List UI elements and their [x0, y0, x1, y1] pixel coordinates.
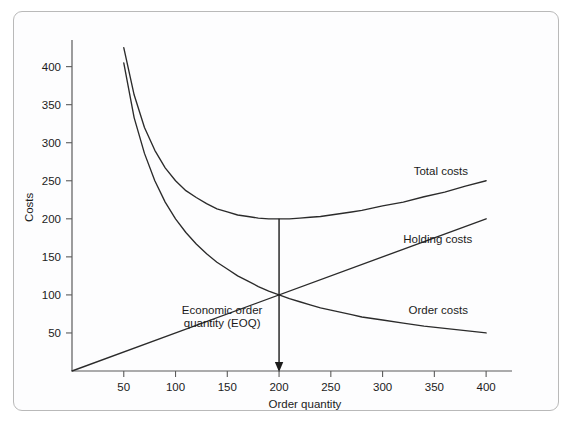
x-tick-label: 150 — [218, 381, 237, 393]
y-tick-label: 150 — [42, 251, 61, 263]
x-tick-label: 100 — [166, 381, 185, 393]
x-tick-label: 50 — [117, 381, 130, 393]
x-tick-label: 200 — [269, 381, 288, 393]
y-tick-label: 400 — [42, 61, 61, 73]
series-curve-order-costs — [124, 63, 486, 333]
y-tick-label: 350 — [42, 99, 61, 111]
y-tick-label: 250 — [42, 175, 61, 187]
eoq-chart: 5010015020025030035040050100150200250300… — [0, 0, 572, 425]
eoq-annotation-line1: Economic order — [182, 304, 263, 316]
x-tick-label: 300 — [373, 381, 392, 393]
series-label-holding-costs: Holding costs — [403, 233, 472, 245]
y-tick-label: 100 — [42, 289, 61, 301]
x-tick-label: 350 — [425, 381, 444, 393]
y-tick-label: 300 — [42, 137, 61, 149]
series-label-total-costs: Total costs — [414, 165, 469, 177]
x-tick-label: 250 — [321, 381, 340, 393]
series-curve-total-costs — [124, 48, 486, 219]
y-tick-label: 50 — [48, 327, 61, 339]
x-tick-label: 400 — [477, 381, 496, 393]
eoq-annotation-line2: quantity (EOQ) — [184, 317, 261, 329]
x-axis-title: Order quantity — [269, 398, 342, 410]
y-axis-title: Costs — [23, 192, 35, 222]
y-tick-label: 200 — [42, 213, 61, 225]
series-label-order-costs: Order costs — [408, 304, 468, 316]
